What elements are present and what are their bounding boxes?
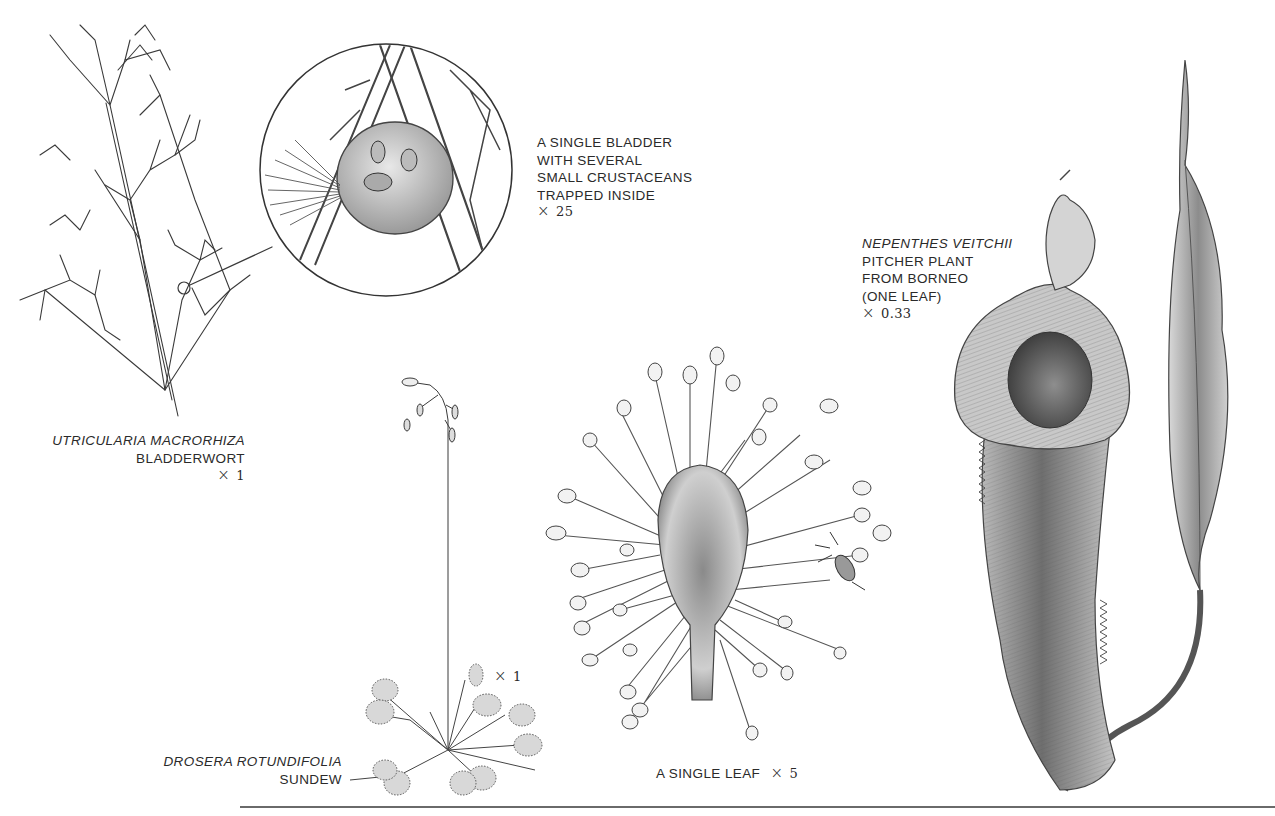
single-leaf-label: A SINGLE LEAF [656, 766, 760, 781]
single-leaf-caption: A SINGLE LEAF ×5 [656, 765, 798, 783]
pitcher-scale: ×0.33 [862, 305, 1012, 323]
bladderwort-scale-value: 1 [236, 468, 245, 483]
pitcher-plant-drawing [955, 60, 1228, 790]
single-leaf-scale: ×5 [770, 766, 798, 781]
bladder-detail-caption: A SINGLE BLADDER WITH SEVERAL SMALL CRUS… [537, 134, 692, 219]
times-symbol-icon: × [770, 764, 783, 782]
pitcher-caption-line-1: PITCHER PLANT [862, 253, 1012, 271]
sundew-scientific-name: DROSERA ROTUNDIFOLIA [100, 753, 342, 771]
times-symbol-icon: × [862, 304, 875, 322]
sundew-plant-drawing [350, 378, 542, 795]
bladder-magnified-drawing [260, 44, 512, 300]
bottom-rule-divider [240, 806, 1275, 808]
sundew-scale-value: 1 [513, 669, 522, 684]
bladder-caption-line-3: SMALL CRUSTACEANS [537, 169, 692, 187]
bladder-scale: ×25 [537, 204, 692, 219]
bladderwort-caption: UTRICULARIA MACRORHIZA BLADDERWORT ×1 [10, 432, 245, 485]
bladder-caption-line-1: A SINGLE BLADDER [537, 134, 692, 152]
bladderwort-drawing [20, 25, 272, 416]
illustration-plate [0, 0, 1275, 816]
sundew-common-name: SUNDEW [100, 771, 342, 789]
times-symbol-icon: × [537, 202, 550, 220]
bladder-scale-value: 25 [556, 204, 573, 219]
bladderwort-scientific-name: UTRICULARIA MACRORHIZA [10, 432, 245, 450]
pitcher-plant-caption: NEPENTHES VEITCHII PITCHER PLANT FROM BO… [862, 235, 1012, 323]
pitcher-scale-value: 0.33 [881, 306, 912, 321]
single-leaf-scale-value: 5 [789, 766, 798, 781]
sundew-leaf-drawing [546, 347, 891, 740]
times-symbol-icon: × [217, 466, 230, 484]
bladderwort-common-name: BLADDERWORT [10, 450, 245, 468]
bladder-caption-line-2: WITH SEVERAL [537, 152, 692, 170]
times-symbol-icon: × [494, 667, 507, 685]
sundew-caption: DROSERA ROTUNDIFOLIA SUNDEW [100, 753, 342, 788]
bladder-caption-line-4: TRAPPED INSIDE [537, 187, 692, 205]
pitcher-caption-line-2: FROM BORNEO [862, 270, 1012, 288]
bladderwort-scale: ×1 [10, 467, 245, 485]
sundew-scale: ×1 [494, 668, 522, 686]
pitcher-scientific-name: NEPENTHES VEITCHII [862, 235, 1012, 253]
pitcher-caption-line-3: (ONE LEAF) [862, 288, 1012, 306]
